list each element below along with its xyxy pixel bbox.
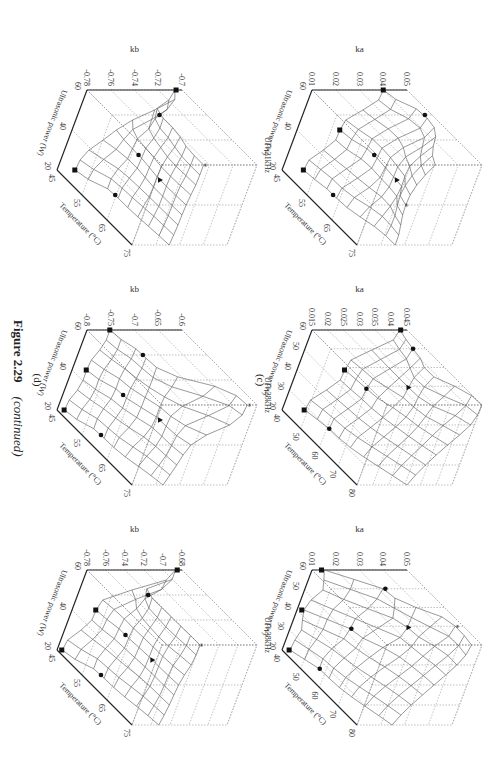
square-marker xyxy=(381,88,386,93)
circle-marker xyxy=(411,346,416,351)
circle-marker xyxy=(317,666,322,671)
svg-text:-0.78: -0.78 xyxy=(82,69,91,86)
svg-text:-0.74: -0.74 xyxy=(120,549,129,566)
chart-c-21khz: 604020455565750.010.020.030.040.05kaUltr… xyxy=(267,20,462,260)
data-markers: * xyxy=(62,328,252,438)
circle-marker xyxy=(383,586,388,591)
svg-text:-0.76: -0.76 xyxy=(106,69,115,86)
svg-text:60: 60 xyxy=(73,562,82,570)
svg-text:0.01: 0.01 xyxy=(307,72,316,86)
square-marker xyxy=(84,368,89,373)
square-marker xyxy=(174,88,179,93)
circle-marker xyxy=(136,153,141,158)
square-marker xyxy=(319,568,324,573)
square-marker xyxy=(337,128,342,133)
svg-text:60: 60 xyxy=(298,82,307,90)
svg-text:kb: kb xyxy=(130,284,140,294)
svg-text:0.05: 0.05 xyxy=(402,72,411,86)
circle-marker xyxy=(423,113,428,118)
figure-number: Figure 2.29 xyxy=(11,320,26,383)
svg-text:55: 55 xyxy=(72,679,81,687)
figure-caption: Figure 2.29(continued) xyxy=(10,320,26,457)
svg-text:45: 45 xyxy=(47,174,56,182)
svg-text:65: 65 xyxy=(97,464,106,472)
svg-text:0.035: 0.035 xyxy=(370,308,379,326)
star-marker: * xyxy=(243,403,252,407)
svg-text:ka: ka xyxy=(355,44,364,54)
square-marker xyxy=(93,608,98,613)
svg-text:75: 75 xyxy=(347,249,356,257)
svg-text:50: 50 xyxy=(291,673,300,681)
svg-text:0.025: 0.025 xyxy=(339,308,348,326)
svg-text:kb: kb xyxy=(130,44,140,54)
svg-text:60: 60 xyxy=(298,322,307,330)
circle-marker xyxy=(121,393,126,398)
circle-marker xyxy=(99,433,104,438)
data-markers: * xyxy=(301,88,427,208)
chart-body: 605040302040506070800.0150.020.0250.030.… xyxy=(260,284,482,497)
svg-text:30: 30 xyxy=(276,382,285,390)
svg-text:40: 40 xyxy=(272,654,281,662)
svg-text:0.02: 0.02 xyxy=(323,312,332,326)
svg-text:75: 75 xyxy=(122,489,131,497)
svg-text:0.02: 0.02 xyxy=(331,552,340,566)
svg-text:-0.72: -0.72 xyxy=(139,549,148,566)
chart-body: 604020455565750.010.020.030.040.05kaUltr… xyxy=(260,44,482,257)
triangle-marker xyxy=(395,177,400,183)
svg-text:-0.65: -0.65 xyxy=(153,309,162,326)
svg-text:0.03: 0.03 xyxy=(355,312,364,326)
square-marker xyxy=(175,568,180,573)
svg-text:60: 60 xyxy=(298,562,307,570)
svg-text:80: 80 xyxy=(347,489,356,497)
chart-d-21khz: 60402045556575-0.78-0.76-0.74-0.72-0.7kb… xyxy=(42,20,237,260)
square-marker xyxy=(59,648,64,653)
svg-text:0.01: 0.01 xyxy=(307,552,316,566)
svg-text:40: 40 xyxy=(272,414,281,422)
svg-text:65: 65 xyxy=(97,704,106,712)
svg-text:kb: kb xyxy=(130,524,140,534)
square-marker xyxy=(107,328,112,333)
svg-text:40: 40 xyxy=(283,602,292,610)
rotated-figure-page: 604020455565750.010.020.030.040.05kaUltr… xyxy=(0,0,482,779)
svg-text:45: 45 xyxy=(47,654,56,662)
star-marker: * xyxy=(477,403,482,407)
chart-d-28khz: 60402045556575-0.8-0.75-0.7-0.65-0.6kbUl… xyxy=(42,260,237,500)
svg-text:80: 80 xyxy=(347,729,356,737)
svg-text:-0.75: -0.75 xyxy=(106,309,115,326)
svg-text:55: 55 xyxy=(72,199,81,207)
svg-text:20: 20 xyxy=(43,642,52,650)
chart-body: 60402045556575-0.8-0.75-0.7-0.65-0.6kbUl… xyxy=(35,284,272,497)
surface-mesh xyxy=(304,90,436,245)
circle-marker xyxy=(157,113,162,118)
square-marker xyxy=(299,608,304,613)
svg-text:20: 20 xyxy=(43,162,52,170)
data-markers: * xyxy=(72,88,207,198)
svg-text:65: 65 xyxy=(97,224,106,232)
svg-text:Temperature (°C): Temperature (°C) xyxy=(282,681,328,727)
svg-text:ka: ka xyxy=(355,284,364,294)
star-marker: * xyxy=(199,163,208,167)
surface-mesh xyxy=(75,90,203,245)
data-markers: * xyxy=(287,568,461,672)
svg-text:60: 60 xyxy=(73,82,82,90)
circle-marker xyxy=(349,626,354,631)
svg-text:40: 40 xyxy=(58,362,67,370)
circle-marker xyxy=(141,353,146,358)
chart-body: 60402045556575-0.78-0.76-0.74-0.72-0.7-0… xyxy=(35,524,272,737)
svg-text:20: 20 xyxy=(43,402,52,410)
svg-text:Temperature (°C): Temperature (°C) xyxy=(282,441,328,487)
svg-text:70: 70 xyxy=(328,470,337,478)
svg-text:UF=21kHz: UF=21kHz xyxy=(263,137,272,174)
svg-text:-0.7: -0.7 xyxy=(158,553,167,566)
svg-text:-0.8: -0.8 xyxy=(82,313,91,326)
svg-text:ka: ka xyxy=(355,524,364,534)
svg-text:30: 30 xyxy=(276,622,285,630)
surface-mesh xyxy=(305,330,482,485)
svg-text:0.04: 0.04 xyxy=(378,72,387,86)
circle-marker xyxy=(331,193,336,198)
svg-text:55: 55 xyxy=(72,439,81,447)
svg-text:50: 50 xyxy=(291,342,300,350)
square-marker xyxy=(287,648,292,653)
svg-text:40: 40 xyxy=(58,602,67,610)
chart-body: 60402045556575-0.78-0.76-0.74-0.72-0.7kb… xyxy=(35,44,272,257)
